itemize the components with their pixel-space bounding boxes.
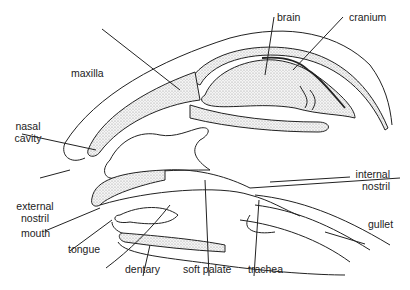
label-brain: brain bbox=[277, 11, 300, 23]
label-internal-nostril-line1: internal bbox=[340, 168, 390, 180]
anatomy-diagram: brain cranium maxilla nasal cavity inter… bbox=[0, 0, 410, 290]
label-trachea: trachea bbox=[248, 263, 283, 275]
label-cranium: cranium bbox=[349, 11, 386, 23]
label-external-nostril-line1: external bbox=[10, 200, 60, 212]
label-dentary: dentary bbox=[125, 263, 160, 275]
label-nasal-cavity-line1: nasal bbox=[8, 120, 48, 132]
label-gullet: gullet bbox=[368, 218, 393, 230]
maxilla bbox=[88, 72, 200, 156]
label-external-nostril-line2: nostril bbox=[10, 212, 60, 224]
upper-beak bbox=[92, 170, 165, 206]
diagram-drawing bbox=[0, 0, 410, 290]
tongue bbox=[115, 208, 178, 224]
label-maxilla: maxilla bbox=[71, 67, 104, 79]
label-soft-palate: soft palate bbox=[183, 263, 231, 275]
dentary bbox=[119, 233, 225, 252]
label-internal-nostril-line2: nostril bbox=[340, 180, 390, 192]
label-nasal-cavity-line2: cavity bbox=[8, 132, 48, 144]
label-mouth: mouth bbox=[21, 227, 50, 239]
label-tongue: tongue bbox=[68, 243, 100, 255]
